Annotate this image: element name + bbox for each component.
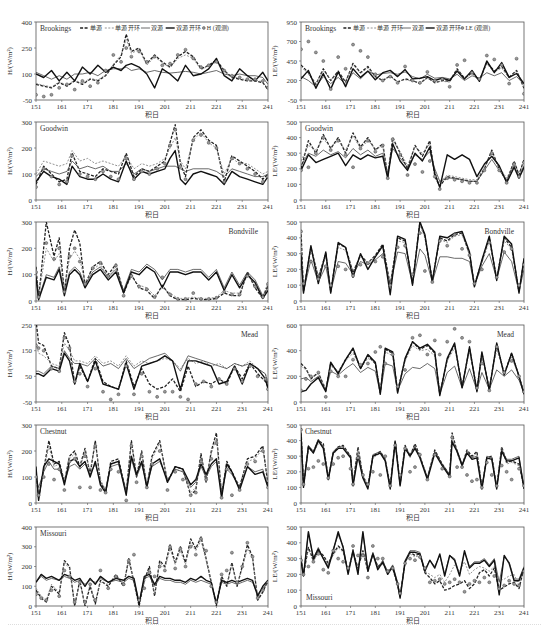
y-tick-label: 100	[22, 474, 33, 482]
observed-marker	[523, 263, 526, 266]
observed-marker	[307, 166, 310, 169]
x-tick-label: 211	[186, 609, 197, 617]
observed-marker	[73, 88, 76, 91]
x-tick-label: 181	[370, 405, 381, 413]
x-tick-label: 161	[57, 103, 68, 111]
observed-marker	[389, 75, 392, 78]
observed-marker	[156, 167, 159, 170]
observed-marker	[267, 175, 270, 178]
observed-marker	[352, 483, 355, 486]
y-tick-label: 200	[22, 245, 33, 253]
x-tick-label: 201	[420, 203, 431, 211]
x-tick-label: 211	[445, 103, 456, 111]
x-tick-label: 221	[469, 304, 480, 312]
observed-marker	[337, 557, 340, 560]
site-label: Mead	[241, 330, 258, 339]
x-tick-label: 231	[237, 405, 248, 413]
series-line	[301, 532, 524, 598]
observed-marker	[324, 265, 327, 268]
observed-marker	[409, 557, 412, 560]
chart-missouri-le: 0100200300400500151161171181191201211221…	[271, 524, 530, 626]
observed-marker	[215, 60, 218, 63]
observed-marker	[453, 327, 456, 330]
observed-marker	[352, 358, 355, 361]
x-axis-label: 积日	[406, 513, 420, 522]
site-label: Brookings	[305, 24, 336, 33]
observed-marker	[153, 296, 156, 299]
observed-marker	[495, 345, 498, 348]
observed-marker	[89, 486, 92, 489]
x-tick-label: 171	[82, 103, 93, 111]
observed-marker	[238, 162, 241, 165]
observed-marker	[384, 455, 387, 458]
y-tick-label: 200	[287, 571, 298, 579]
legend-item-label: 单源	[90, 24, 102, 32]
observed-marker	[374, 350, 377, 353]
observed-marker	[42, 476, 45, 479]
observed-marker	[483, 576, 486, 579]
observed-marker	[349, 467, 352, 470]
x-tick-label: 211	[186, 103, 197, 111]
x-tick-label: 171	[82, 405, 93, 413]
observed-marker	[389, 284, 392, 287]
observed-marker	[171, 390, 174, 393]
observed-marker	[199, 460, 202, 463]
observed-marker	[215, 296, 218, 299]
y-tick-label: 100	[287, 484, 298, 492]
observed-marker	[125, 47, 128, 50]
x-axis-label: 积日	[406, 311, 420, 320]
x-axis-label: 积日	[406, 210, 420, 219]
observed-marker	[399, 592, 402, 595]
y-tick-label: 300	[287, 555, 298, 563]
x-tick-label: 231	[237, 103, 248, 111]
y-tick-label: 400	[287, 437, 298, 445]
legend: 单源单源 开环双源双源 开环H (观测)	[80, 24, 229, 32]
series-line	[36, 39, 268, 88]
observed-marker	[314, 152, 317, 155]
observed-marker	[438, 239, 441, 242]
x-tick-label: 221	[469, 405, 480, 413]
observed-marker	[220, 573, 223, 576]
x-tick-label: 171	[82, 304, 93, 312]
observed-marker	[37, 347, 40, 350]
observed-marker	[194, 383, 197, 386]
observed-marker	[71, 154, 74, 157]
observed-marker	[426, 353, 429, 356]
observed-marker	[344, 375, 347, 378]
observed-marker	[374, 150, 377, 153]
observed-marker	[207, 141, 210, 144]
observed-marker	[381, 144, 384, 147]
x-tick-label: 181	[108, 609, 119, 617]
observed-marker	[254, 78, 257, 81]
x-tick-label: 191	[395, 609, 406, 617]
observed-marker	[404, 447, 407, 450]
chart-bondville-h: 0100200300151161171181191201211221231241…	[6, 219, 274, 321]
legend-item-label: 双源	[151, 24, 163, 32]
chart-chestnut-h: 0100200300151161171181191201211221231241…	[6, 422, 274, 523]
observed-marker	[130, 444, 133, 447]
x-tick-label: 221	[211, 304, 222, 312]
plot-frame	[36, 22, 268, 100]
observed-marker	[470, 71, 473, 74]
observed-marker	[267, 581, 270, 584]
series-line	[301, 434, 524, 489]
observed-marker	[384, 362, 387, 365]
observed-marker	[468, 582, 471, 585]
observed-marker	[192, 292, 195, 295]
x-tick-label: 171	[82, 506, 93, 514]
observed-marker	[94, 178, 97, 181]
legend-item-label: 单源 开环	[115, 24, 141, 32]
y-tick-label: 200	[22, 563, 33, 571]
x-tick-label: 181	[108, 506, 119, 514]
x-tick-label: 201	[160, 405, 171, 413]
x-tick-label: 211	[186, 203, 197, 211]
observed-marker	[307, 467, 310, 470]
observed-marker	[453, 178, 456, 181]
site-label: Missouri	[306, 593, 333, 602]
observed-marker	[391, 567, 394, 570]
observed-marker	[468, 254, 471, 257]
observed-marker	[475, 386, 478, 389]
x-tick-label: 231	[494, 405, 505, 413]
observed-marker	[42, 349, 45, 352]
observed-marker	[411, 336, 414, 339]
